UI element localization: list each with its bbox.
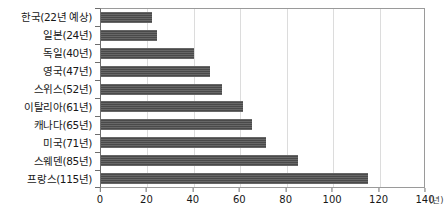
category-label: 일본(24년): [0, 26, 96, 44]
bar: [101, 173, 368, 184]
value-axis: 020406080100120140: [100, 188, 425, 204]
tick-mark: [192, 188, 193, 192]
tick-mark: [100, 188, 101, 192]
axis-unit-label: (년): [429, 188, 444, 207]
category-label: 독일(40년): [0, 44, 96, 62]
value-axis-tick-label: 120: [369, 188, 388, 207]
plot-area: [100, 8, 425, 188]
bar-row: [101, 9, 424, 27]
bar: [101, 66, 210, 77]
category-label: 스웨덴(85년): [0, 152, 96, 170]
tick-mark: [239, 188, 240, 192]
category-label: 미국(71년): [0, 134, 96, 152]
value-axis-tick-label: 40: [186, 188, 199, 207]
tick-mark: [378, 188, 379, 192]
bar: [101, 119, 252, 130]
bar: [101, 30, 157, 41]
category-label: 한국(22년 예상): [0, 8, 96, 26]
value-axis-tick-label: 60: [233, 188, 246, 207]
bar-row: [101, 169, 424, 187]
bar-row: [101, 62, 424, 80]
tick-mark: [285, 188, 286, 192]
bar: [101, 101, 243, 112]
category-label: 프랑스(115년): [0, 170, 96, 188]
bar: [101, 84, 222, 95]
value-axis-tick-label: 80: [279, 188, 292, 207]
bar-row: [101, 134, 424, 152]
category-label: 이탈리아(61년): [0, 98, 96, 116]
bar-row: [101, 116, 424, 134]
bar-row: [101, 80, 424, 98]
bar-row: [101, 27, 424, 45]
category-label: 스위스(52년): [0, 80, 96, 98]
bar: [101, 137, 266, 148]
tick-mark: [146, 188, 147, 192]
value-axis-tick-label: 100: [323, 188, 342, 207]
bar: [101, 12, 152, 23]
bar-row: [101, 45, 424, 63]
category-axis: 한국(22년 예상) 일본(24년) 독일(40년) 영국(47년) 스위스(5…: [0, 8, 96, 188]
category-label: 영국(47년): [0, 62, 96, 80]
category-label: 캐나다(65년): [0, 116, 96, 134]
bar: [101, 48, 194, 59]
value-axis-tick-label: 20: [140, 188, 153, 207]
bar-row: [101, 98, 424, 116]
bar: [101, 155, 298, 166]
value-axis-tick-label: 0: [97, 188, 103, 207]
bar-series: [101, 9, 424, 187]
tick-mark: [332, 188, 333, 192]
bar-row: [101, 151, 424, 169]
tick-mark: [425, 188, 426, 192]
